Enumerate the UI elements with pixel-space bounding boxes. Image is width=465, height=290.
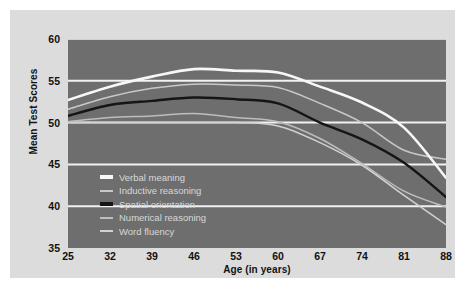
x-tick-label: 53 [216,250,256,262]
x-tick-label: 81 [384,250,424,262]
legend-label: Spatial orientation [119,199,195,210]
x-tick-label: 88 [426,250,465,262]
legend-item: Numerical reasoning [100,212,206,224]
legend-swatch-icon [100,190,113,192]
legend-swatch-icon [100,230,113,232]
chart-card: Mean Test Scores 605550454035 Verbal mea… [10,10,455,278]
y-tick-label: 60 [14,33,60,45]
chart-figure: Mean Test Scores 605550454035 Verbal mea… [0,0,465,290]
x-tick-label: 32 [90,250,130,262]
legend-label: Word fluency [119,226,174,237]
x-tick-label: 67 [300,250,340,262]
legend-swatch-icon [100,175,113,179]
legend-label: Inductive reasoning [119,185,201,196]
y-tick-label: 55 [14,75,60,87]
y-tick-label: 45 [14,158,60,170]
legend-label: Numerical reasoning [119,212,206,223]
legend-label: Verbal meaning [119,172,185,183]
legend-item: Inductive reasoning [100,185,201,197]
x-tick-label: 39 [132,250,172,262]
legend-item: Word fluency [100,225,174,237]
y-tick-label: 50 [14,117,60,129]
y-tick-label: 40 [14,200,60,212]
legend-item: Spatial orientation [100,198,195,210]
legend-swatch-icon [100,202,113,206]
x-tick-label: 74 [342,250,382,262]
x-tick-label: 25 [48,250,88,262]
x-tick-label: 46 [174,250,214,262]
plot-area: Verbal meaningInductive reasoningSpatial… [68,39,446,248]
legend-item: Verbal meaning [100,171,185,183]
x-tick-label: 60 [258,250,298,262]
x-axis-title: Age (in years) [68,264,446,275]
legend-swatch-icon [100,217,113,219]
